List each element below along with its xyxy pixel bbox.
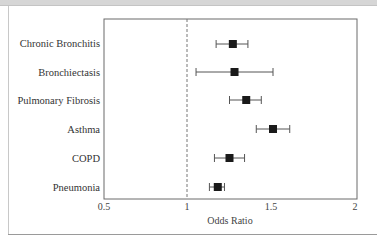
x-tick-label: 1.5 (265, 201, 278, 213)
forest-row (230, 96, 262, 104)
odds-ratio-marker (214, 183, 222, 191)
odds-ratio-marker (269, 125, 277, 133)
odds-ratio-marker (242, 96, 250, 104)
x-tick-label: 2 (353, 201, 358, 213)
category-label: Bronchiectasis (38, 67, 100, 79)
odds-ratio-marker (226, 154, 234, 162)
category-label: Asthma (67, 124, 100, 136)
x-axis-title: Odds Ratio (207, 215, 252, 226)
category-label: Pulmonary Fibrosis (17, 95, 100, 107)
forest-row (209, 183, 224, 191)
forest-row (256, 125, 289, 133)
x-tick-label: 1 (185, 201, 190, 213)
forest-row (196, 68, 273, 76)
data-points (196, 40, 290, 191)
x-tick-label: 0.5 (98, 201, 111, 213)
category-label: Chronic Bronchitis (20, 38, 100, 50)
category-label: Pneumonia (53, 182, 100, 194)
forest-row (216, 40, 248, 48)
odds-ratio-marker (229, 40, 237, 48)
forest-row (214, 154, 244, 162)
odds-ratio-marker (231, 68, 239, 76)
category-label: COPD (72, 153, 100, 165)
